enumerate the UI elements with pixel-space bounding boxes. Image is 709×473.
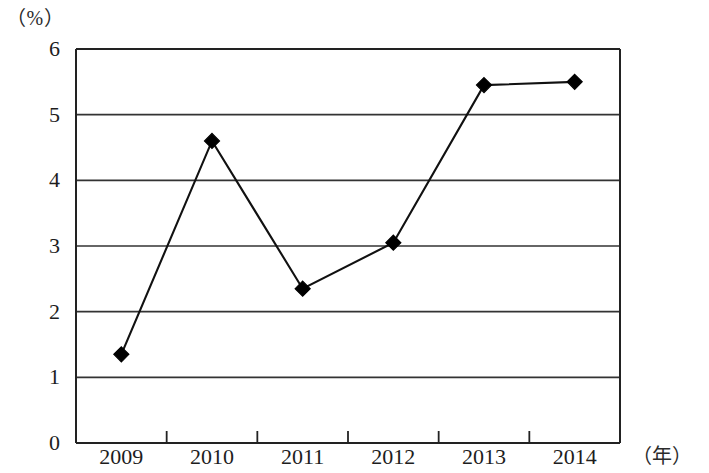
data-markers	[114, 74, 582, 362]
data-point-marker	[114, 347, 129, 362]
data-point-marker	[567, 74, 582, 89]
gridlines	[76, 115, 620, 378]
plot-area	[0, 0, 709, 473]
data-point-marker	[386, 235, 401, 250]
x-axis-ticks	[167, 431, 530, 443]
data-point-marker	[477, 78, 492, 93]
data-line	[121, 82, 574, 355]
data-point-marker	[205, 133, 220, 148]
line-chart: （%） （年） 0123456 200920102011201220132014	[0, 0, 709, 473]
data-point-marker	[295, 281, 310, 296]
